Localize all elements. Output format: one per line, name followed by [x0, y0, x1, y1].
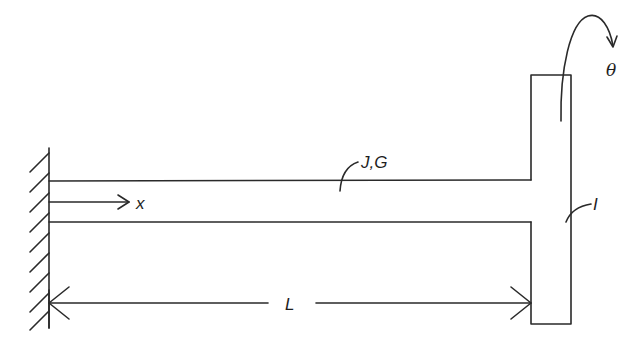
disk-label-leader	[566, 204, 591, 222]
disk-inertia-label: I	[593, 195, 598, 214]
shaft	[49, 180, 531, 222]
shaft-properties-label: J,G	[360, 153, 387, 172]
x-axis-arrow	[49, 195, 129, 209]
length-label: L	[285, 295, 294, 314]
rotation-label: θ	[606, 60, 616, 80]
torsion-diagram: x J,G I θ L	[0, 0, 643, 346]
fixed-wall	[30, 148, 49, 330]
shaft-top-edge	[49, 180, 531, 181]
wall-hatching	[30, 153, 49, 330]
shaft-label-leader	[340, 162, 358, 191]
disk	[531, 75, 571, 324]
x-axis-label: x	[135, 194, 145, 213]
